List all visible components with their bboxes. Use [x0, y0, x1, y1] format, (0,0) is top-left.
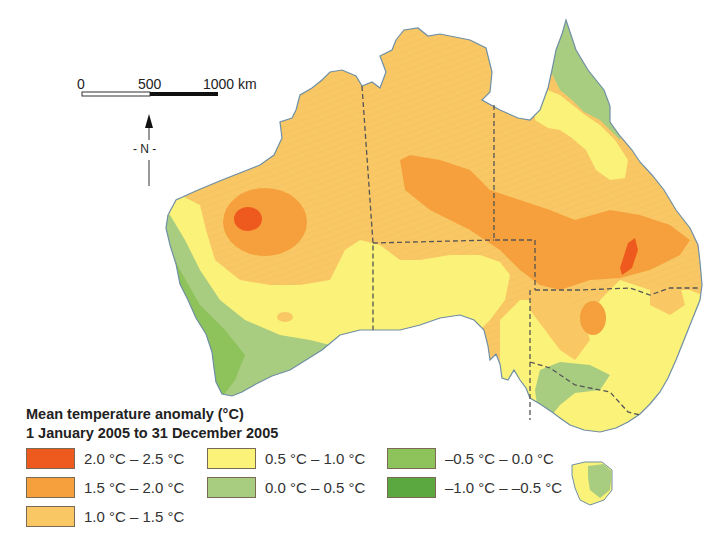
legend-item-2.0-2.5: 2.0 °C – 2.5 °C — [26, 448, 184, 469]
scale-bar — [82, 92, 218, 96]
scale-label-0: 0 — [77, 76, 85, 92]
legend-label: 2.0 °C – 2.5 °C — [84, 450, 184, 467]
legend-item-1.5-2.0: 1.5 °C – 2.0 °C — [26, 477, 184, 498]
legend-label: 1.5 °C – 2.0 °C — [84, 479, 184, 496]
legend-label: 0.5 °C – 1.0 °C — [265, 450, 365, 467]
legend-label: 1.0 °C – 1.5 °C — [84, 508, 184, 525]
legend-item-0.0-0.5: 0.0 °C – 0.5 °C — [207, 477, 365, 498]
legend-swatch — [207, 477, 256, 498]
legend-label: –1.0 °C – –0.5 °C — [445, 479, 562, 496]
north-label: - N - — [133, 142, 156, 156]
legend-swatch — [26, 477, 75, 498]
legend-title-line1: Mean temperature anomaly (°C) — [26, 405, 278, 424]
legend-label: 0.0 °C – 0.5 °C — [265, 479, 365, 496]
legend-item-0.5-1.0: 0.5 °C – 1.0 °C — [207, 448, 365, 469]
legend-title: Mean temperature anomaly (°C) 1 January … — [26, 405, 278, 443]
legend-item-1.0-1.5: 1.0 °C – 1.5 °C — [26, 506, 184, 527]
legend-title-line2: 1 January 2005 to 31 December 2005 — [26, 424, 278, 443]
legend-swatch — [26, 448, 75, 469]
legend-label: –0.5 °C – 0.0 °C — [445, 450, 554, 467]
scale-label-500: 500 — [138, 76, 161, 92]
scale-label-1000: 1000 km — [203, 76, 257, 92]
legend-swatch — [387, 448, 436, 469]
legend-swatch — [26, 506, 75, 527]
legend-item-neg0.5-0.0: –0.5 °C – 0.0 °C — [387, 448, 554, 469]
legend-item-neg1.0-neg0.5: –1.0 °C – –0.5 °C — [387, 477, 562, 498]
tasmania — [572, 462, 612, 505]
legend-swatch — [207, 448, 256, 469]
legend-swatch — [387, 477, 436, 498]
